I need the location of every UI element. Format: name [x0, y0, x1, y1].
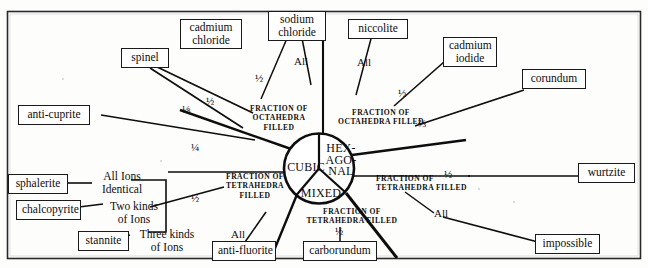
label-three-kinds-of-ions: Three kinds of Ions: [129, 228, 205, 253]
node-cadmium-chloride[interactable]: cadmium chloride: [180, 19, 242, 49]
fraction-impossible: All: [434, 207, 448, 219]
fraction-anti-cuprite: ¼: [191, 141, 199, 153]
node-label-line: iodide: [449, 52, 491, 65]
node-label-line: chalcopyrite: [22, 203, 75, 216]
node-label-line: anti-fluorite: [218, 244, 270, 257]
node-chalcopyrite[interactable]: chalcopyrite: [16, 200, 81, 220]
node-label-line: niccolite: [354, 22, 402, 35]
paper-speck: [478, 188, 480, 190]
label-two-kinds-of-ions: Two kinds of Ions: [101, 200, 167, 225]
node-anti-cuprite[interactable]: anti-cuprite: [18, 105, 90, 125]
axis-ray-upright: [352, 140, 466, 155]
fraction-cadmium-iodide: ½: [398, 87, 406, 99]
fraction-carborundum: ½: [335, 225, 343, 237]
connector-anti-fluorite: [245, 212, 266, 242]
connector-impossible: [443, 217, 538, 242]
fraction-ion-group: ½: [191, 192, 199, 204]
node-label-line: sodium: [274, 13, 320, 26]
axis-label-octahedra-left: FRACTION OF OCTAHEDRA FILLED: [248, 104, 310, 132]
node-label-line: cadmium: [186, 21, 236, 34]
axis-label-octahedra-right: FRACTION OF OCTAHEDRA FILLED: [333, 108, 429, 127]
node-label-line: chloride: [186, 34, 236, 47]
node-anti-fluorite[interactable]: anti-fluorite: [212, 241, 276, 261]
node-label-line: corundum: [528, 72, 580, 85]
node-corundum[interactable]: corundum: [522, 69, 586, 89]
label-all-ions-identical: All Ions Identical: [91, 170, 153, 195]
fraction-sodium-chloride: All: [294, 55, 308, 67]
sector-label-hexagonal: HEX- AGO- NAL: [324, 143, 358, 178]
node-wurtzite[interactable]: wurtzite: [578, 163, 635, 183]
fraction-spinel-half: ½: [206, 95, 214, 107]
node-label-line: carborundum: [309, 244, 371, 257]
node-label-line: chloride: [274, 26, 320, 39]
node-label-line: sphalerite: [14, 177, 62, 190]
sector-label-mixed: MIXED: [299, 188, 343, 200]
node-carborundum[interactable]: carborundum: [303, 241, 377, 261]
fraction-anti-fluorite: All: [231, 228, 245, 240]
node-spinel[interactable]: spinel: [121, 48, 169, 68]
node-label-line: cadmium: [449, 39, 491, 52]
connector-spinel-eighth: [150, 68, 243, 128]
axis-label-tetrahedra-bottom-center: FRACTION OF TETRAHEDRA FILLED: [303, 207, 401, 226]
node-cadmium-iodide[interactable]: cadmium iodide: [443, 37, 497, 67]
connector-cadmium-iodide: [394, 62, 444, 106]
axis-label-tetrahedra-left: FRACTION OF TETRAHEDRA FILLED: [222, 172, 288, 200]
connector-corundum: [415, 90, 524, 126]
paper-speck: [513, 201, 515, 203]
sector-label-cubic: CUBIC: [286, 162, 326, 174]
paper-speck: [62, 78, 64, 80]
node-label-line: spinel: [127, 51, 163, 64]
fraction-cadmium-chloride: ½: [255, 72, 263, 84]
figure-canvas: cadmium chloride sodium chloride niccoli…: [0, 0, 648, 268]
node-niccolite[interactable]: niccolite: [348, 19, 408, 39]
node-label-line: anti-cuprite: [24, 108, 84, 121]
node-label-line: stannite: [84, 234, 123, 247]
connector-cadmium-chloride: [261, 36, 288, 99]
axis-label-tetrahedra-right: FRACTION OF TETRAHEDRA FILLED: [376, 174, 470, 193]
paper-speck: [160, 160, 162, 162]
connector-spinel-half: [153, 65, 253, 113]
node-stannite[interactable]: stannite: [78, 231, 129, 251]
node-impossible[interactable]: impossible: [535, 234, 600, 254]
node-sphalerite[interactable]: sphalerite: [8, 174, 68, 194]
node-label-line: impossible: [541, 237, 594, 250]
fraction-corundum: ⅔: [418, 117, 426, 129]
connector-impossible-tail: [405, 192, 434, 213]
fraction-niccolite: All: [357, 56, 371, 68]
fraction-wurtzite: ½: [444, 168, 452, 180]
node-sodium-chloride[interactable]: sodium chloride: [268, 11, 326, 41]
node-label-line: wurtzite: [584, 166, 629, 179]
fraction-spinel-eighth: ⅛: [182, 103, 190, 115]
